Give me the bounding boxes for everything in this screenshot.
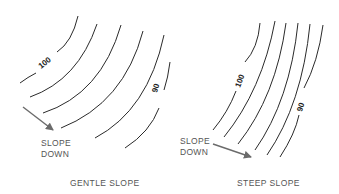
contour-line-100 <box>245 23 260 62</box>
contour-label-90: 90 <box>150 82 161 93</box>
slope-down-label-line1: SLOPE <box>180 136 210 146</box>
slope-down-arrow <box>213 144 251 157</box>
slope-down-label-line2: DOWN <box>41 149 69 159</box>
contour-diagram: 100 90 SLOPE DOWN GENTLE SLOPE 100 90 SL… <box>0 0 339 194</box>
contour-line <box>255 23 298 150</box>
contour-line <box>238 23 286 144</box>
contour-line <box>224 21 275 137</box>
contour-line <box>61 31 143 128</box>
contour-line-90 <box>125 108 159 148</box>
contour-line <box>43 25 121 113</box>
gentle-slope-panel: 100 90 SLOPE DOWN GENTLE SLOPE <box>20 16 170 188</box>
gentle-slope-caption: GENTLE SLOPE <box>70 178 140 188</box>
contour-line-90 <box>304 25 323 88</box>
contour-label-90: 90 <box>295 101 306 112</box>
slope-down-arrow <box>23 107 53 130</box>
contour-label-100: 100 <box>37 55 53 71</box>
contour-line-90 <box>164 62 170 90</box>
contour-line <box>267 24 310 155</box>
steep-slope-caption: STEEP SLOPE <box>237 178 300 188</box>
contour-line-100 <box>213 91 236 130</box>
steep-slope-panel: 100 90 SLOPE DOWN STEEP SLOPE <box>180 21 323 188</box>
slope-down-label-line2: DOWN <box>180 147 208 157</box>
slope-down-label-line1: SLOPE <box>41 138 71 148</box>
contour-label-100: 100 <box>233 73 246 89</box>
contour-line-90 <box>280 115 299 157</box>
contour-line-100 <box>57 16 78 52</box>
contour-line-100 <box>20 73 36 83</box>
